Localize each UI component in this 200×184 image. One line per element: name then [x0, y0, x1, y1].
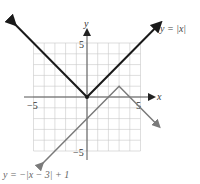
- y-axis-label: y: [83, 18, 89, 29]
- x-axis-label: x: [156, 91, 162, 102]
- graph: x y −5 5 5 −5 y = |x| y = −|x − 3| + 1: [0, 0, 200, 184]
- y-tick-neg5: −5: [73, 147, 84, 158]
- label-y-neg-abs: y = −|x − 3| + 1: [2, 169, 69, 180]
- origin-point: [85, 95, 89, 99]
- label-y-abs-x: y = |x|: [159, 23, 186, 34]
- y-tick-pos5: 5: [79, 39, 84, 50]
- series-neg-abs-shift: [42, 86, 159, 164]
- x-tick-neg5: −5: [27, 100, 38, 111]
